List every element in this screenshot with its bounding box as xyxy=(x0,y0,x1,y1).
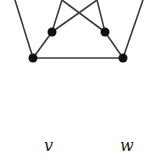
label-w: w xyxy=(120,138,134,154)
edge-right-outer xyxy=(123,0,143,58)
node-middle-left xyxy=(48,28,57,37)
edge-br-mr xyxy=(105,32,123,58)
graph-diagram xyxy=(0,0,166,160)
label-v: v xyxy=(44,138,53,154)
edge-ml-up xyxy=(52,0,62,32)
node-bottom-right xyxy=(119,54,128,63)
edge-left-outer xyxy=(15,0,33,58)
node-bottom-left xyxy=(29,54,38,63)
node-middle-right xyxy=(101,28,110,37)
edge-ml-cross xyxy=(52,0,97,32)
edge-bl-ml xyxy=(33,32,52,58)
